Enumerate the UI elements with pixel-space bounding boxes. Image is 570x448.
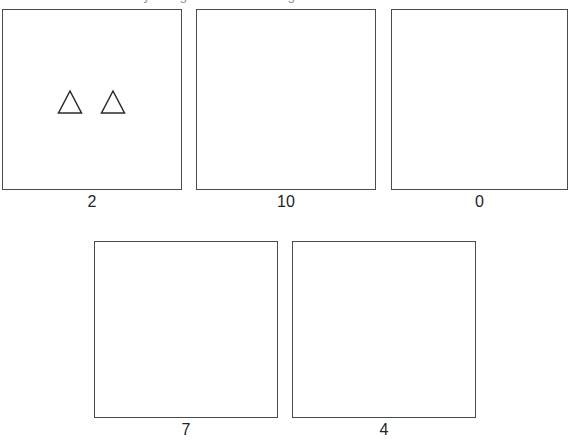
shape-layer (95, 242, 277, 417)
shape-layer (3, 10, 181, 189)
option-10[interactable]: 10 (196, 9, 376, 213)
option-box[interactable] (292, 241, 476, 418)
triangle-shape (57, 89, 83, 115)
option-label: 2 (2, 193, 182, 211)
option-2[interactable]: 2 (2, 9, 182, 213)
option-box[interactable] (196, 9, 376, 190)
shape-layer (392, 10, 567, 189)
option-label: 7 (94, 421, 278, 439)
option-7[interactable]: 7 (94, 241, 278, 441)
option-label: 4 (292, 421, 476, 439)
prompt-label: How many triangles are in the image? (0, 0, 570, 3)
option-box[interactable] (391, 9, 568, 190)
option-box[interactable] (2, 9, 182, 190)
prompt-text-clipped: How many triangles are in the image? (0, 0, 570, 3)
option-label: 0 (391, 193, 568, 211)
triangle-shape (100, 89, 126, 115)
option-box[interactable] (94, 241, 278, 418)
shape-layer (293, 242, 475, 417)
option-label: 10 (196, 193, 376, 211)
option-0[interactable]: 0 (391, 9, 568, 213)
shape-layer (197, 10, 375, 189)
option-4[interactable]: 4 (292, 241, 476, 441)
